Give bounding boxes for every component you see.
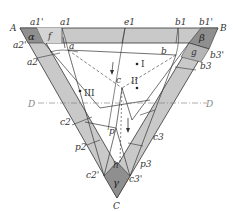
point-c-label: c <box>116 75 121 85</box>
region-i-label: I <box>141 59 145 69</box>
section-d-right-label: D <box>205 99 213 109</box>
alpha-label: α <box>28 31 35 42</box>
beta-label: β <box>198 32 205 43</box>
region-ii-label: II <box>131 76 139 86</box>
c3p-label: c3' <box>129 174 142 184</box>
a1p-label: a1' <box>30 17 44 27</box>
c2-label: c2 <box>60 117 71 127</box>
p3-label: p3 <box>140 159 152 169</box>
point-a-label: a <box>69 41 74 51</box>
g-label: g <box>191 47 197 57</box>
c3-label: c3 <box>153 132 164 142</box>
a2p-label: a2' <box>13 40 27 50</box>
a1-label: a1 <box>60 17 71 27</box>
section-d-left-label: D <box>27 99 35 109</box>
vertex-a-label: A <box>9 23 17 33</box>
b1p-label: b1' <box>199 17 213 27</box>
ternary-diagram: A B C α β γ f g h I II III a b c p a1' a… <box>0 0 233 212</box>
vertex-b-label: B <box>219 23 227 33</box>
c2p-label: c2' <box>86 170 99 180</box>
vertex-c-label: C <box>113 201 120 211</box>
point-b-label: b <box>161 46 167 56</box>
point-p-label: p <box>109 126 115 136</box>
b3p-label: b3' <box>210 50 224 60</box>
a2-label: a2 <box>27 57 38 67</box>
b1-label: b1 <box>175 17 187 27</box>
e1-label: e1 <box>124 17 135 27</box>
b3-label: b3 <box>200 61 212 71</box>
p2-label: p2 <box>75 142 87 152</box>
gamma-label: γ <box>113 177 119 188</box>
region-iii-label: III <box>84 88 95 98</box>
h-label: h <box>113 160 119 170</box>
